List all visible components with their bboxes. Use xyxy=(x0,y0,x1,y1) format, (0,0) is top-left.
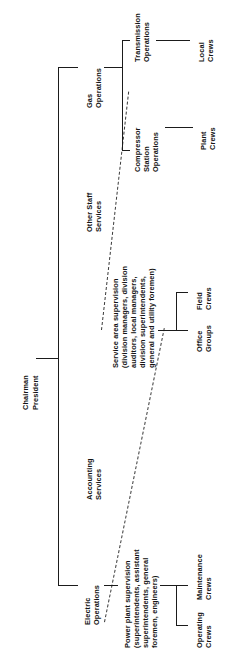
edge-to-operating-crews xyxy=(176,625,188,626)
edge-transmission-to-local-crews xyxy=(156,40,190,41)
edge-gas-bus xyxy=(122,40,123,150)
edge-power-plant-bus xyxy=(176,585,177,625)
root-node-president: President xyxy=(32,375,41,410)
node-accounting-services-line2: Services xyxy=(95,469,104,500)
root-node-chairman: Chairman xyxy=(22,375,31,410)
leaf-field-crews-line2: Crews xyxy=(205,287,214,310)
node-service-area-supervision-line3: auditors, local managers, xyxy=(130,276,138,368)
edge-to-compressor-station xyxy=(122,150,130,151)
edge-compressor-to-plant-crews xyxy=(165,127,193,128)
leaf-maintenance-crews-line2: Crews xyxy=(205,577,214,600)
edge-gas-stem xyxy=(104,67,122,68)
edge-service-area-bus xyxy=(176,292,177,330)
node-electric-operations-line2: Operations xyxy=(93,585,102,625)
node-power-plant-supervision-line2: (superintendents, assistant xyxy=(133,549,141,648)
leaf-office-groups-line2: Groups xyxy=(205,325,214,352)
edge-to-field-crews xyxy=(176,292,188,293)
edge-to-transmission-operations xyxy=(122,40,130,41)
node-service-area-supervision-line4: division superintendents, xyxy=(139,276,147,368)
node-other-staff-services-line2: Services xyxy=(95,201,104,232)
edge-to-electric-operations xyxy=(58,585,78,586)
leaf-operating-crews-line2: Crews xyxy=(205,625,214,648)
node-power-plant-supervision-line4: foremen, engineers) xyxy=(151,575,159,648)
org-chart: Chairman President Gas Other Staff Accou… xyxy=(0,0,234,654)
edge-root-stem xyxy=(36,358,58,359)
edge-service-area-stem xyxy=(158,330,176,331)
edge-main-spine xyxy=(58,67,59,585)
leaf-local-crews-line2: Crews xyxy=(207,39,216,62)
node-power-plant-supervision-line3: superintendents, general xyxy=(142,558,150,648)
node-service-area-supervision-line2: (division managers, division xyxy=(121,266,129,368)
leaf-plant-crews-line2: Crews xyxy=(209,127,218,150)
node-service-area-supervision-line5: general and utility foremen) xyxy=(148,268,156,368)
edge-power-plant-stem xyxy=(160,585,176,586)
node-power-plant-supervision-line1: Power plant supervision xyxy=(124,560,132,648)
edge-electric-to-power-plant xyxy=(104,585,118,586)
edge-to-office-groups xyxy=(176,330,188,331)
node-gas-operations-line2: Operations xyxy=(95,68,104,108)
node-service-area-supervision-line1: Service area supervision xyxy=(112,279,120,369)
edge-to-gas-operations xyxy=(58,67,78,68)
node-compressor-station-line3: Operations xyxy=(152,132,161,172)
edge-to-maintenance-crews xyxy=(176,585,188,586)
node-transmission-operations-line2: Operations xyxy=(143,22,152,62)
